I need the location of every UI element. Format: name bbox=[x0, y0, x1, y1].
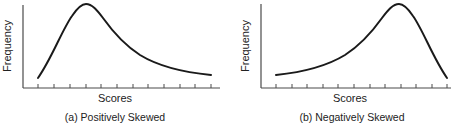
distribution-curve bbox=[38, 4, 211, 78]
x-axis-label: Scores bbox=[98, 92, 133, 104]
y-axis-label: Frequency bbox=[239, 20, 251, 72]
panel-caption: (a) Positively Skewed bbox=[65, 111, 166, 123]
x-axis-label: Scores bbox=[333, 92, 368, 104]
skewed-distributions-figure: Frequency Scores (a) Positively Skewed F… bbox=[0, 0, 463, 134]
y-axis-label: Frequency bbox=[1, 20, 13, 72]
panel-negatively-skewed: Frequency Scores (b) Negatively Skewed bbox=[239, 4, 451, 123]
panel-positively-skewed: Frequency Scores (a) Positively Skewed bbox=[1, 4, 220, 123]
distribution-curve bbox=[276, 4, 447, 78]
panel-caption: (b) Negatively Skewed bbox=[299, 111, 404, 123]
